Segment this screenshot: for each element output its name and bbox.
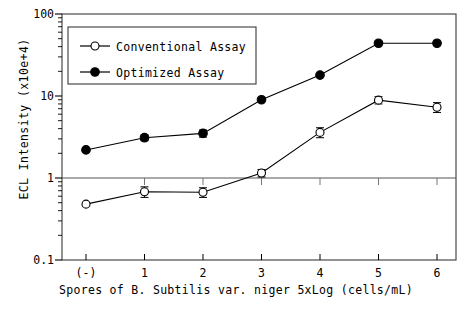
data-point xyxy=(433,39,442,48)
y-axis-major-ticks xyxy=(55,14,62,260)
x-tick-label: 4 xyxy=(300,266,340,280)
data-point xyxy=(374,39,383,48)
y-axis-title: ECL Intensity (x10e+4) xyxy=(17,9,31,229)
gridlines xyxy=(62,178,456,185)
data-point xyxy=(258,169,266,177)
x-tick-label: (-) xyxy=(66,266,106,280)
y-tick-label: 1 xyxy=(8,171,54,185)
x-axis-ticks xyxy=(86,254,437,260)
series-conventional-assay xyxy=(82,96,441,208)
data-point xyxy=(257,95,266,104)
data-point xyxy=(82,146,91,155)
data-point xyxy=(316,71,325,80)
y-tick-label: 100 xyxy=(8,7,54,21)
data-point xyxy=(433,103,441,111)
x-tick-label: 2 xyxy=(183,266,223,280)
data-point xyxy=(82,200,90,208)
x-axis-tick-labels: (-)123456 xyxy=(0,266,472,280)
data-point xyxy=(375,96,383,104)
data-point xyxy=(141,188,149,196)
x-tick-label: 6 xyxy=(417,266,457,280)
x-axis-title: Spores of B. Subtilis var. niger 5xLog (… xyxy=(0,283,472,297)
x-tick-label: 1 xyxy=(125,266,165,280)
data-point xyxy=(140,133,149,142)
y-tick-label: 0.1 xyxy=(8,253,54,267)
data-point xyxy=(199,129,208,138)
y-axis-minor-ticks xyxy=(58,18,62,236)
legend-label-conventional-assay: Conventional Assay xyxy=(116,40,246,54)
data-point xyxy=(316,128,324,136)
x-tick-label: 5 xyxy=(359,266,399,280)
y-tick-label: 10 xyxy=(8,89,54,103)
legend-label-optimized-assay: Optimized Assay xyxy=(116,66,224,80)
data-point xyxy=(199,188,207,196)
x-tick-label: 3 xyxy=(242,266,282,280)
figure-root: ECL Intensity (x10e+4) 1001010.1 (-)1234… xyxy=(0,0,472,309)
